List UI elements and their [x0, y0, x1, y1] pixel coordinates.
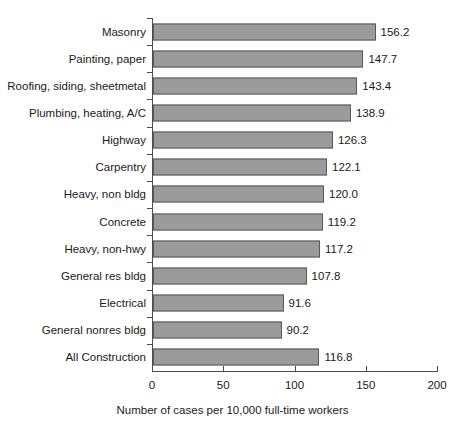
- x-axis-tick-mark: [152, 366, 153, 372]
- x-axis-tick-label: 50: [217, 378, 230, 392]
- x-axis-tick-mark: [366, 366, 367, 372]
- x-axis-tick-mark: [295, 366, 296, 372]
- x-axis-title: Number of cases per 10,000 full-time wor…: [0, 403, 465, 417]
- bar-chart: Masonry156.2Painting, paper147.7Roofing,…: [0, 0, 465, 435]
- x-axis-tick-label: 100: [285, 378, 304, 392]
- x-axis-tick-label: 200: [427, 378, 446, 392]
- x-axis-tick-label: 150: [356, 378, 375, 392]
- x-axis-tick-label: 0: [149, 378, 155, 392]
- x-axis-tick-mark: [437, 366, 438, 372]
- x-axis-ticks: 050100150200: [0, 0, 465, 435]
- x-axis-tick-mark: [223, 366, 224, 372]
